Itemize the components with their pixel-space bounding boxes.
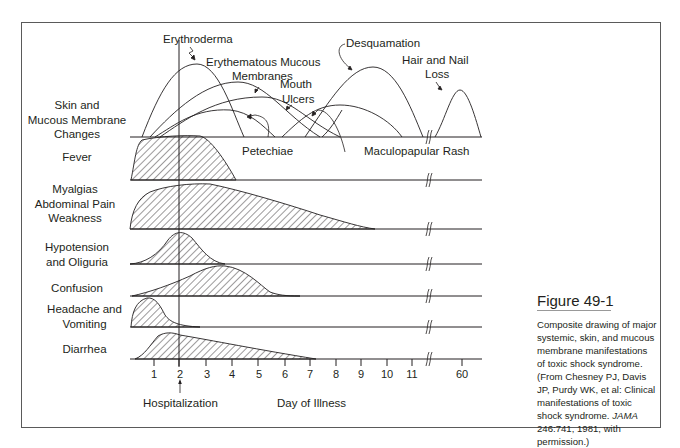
diarrhea-area	[135, 333, 316, 359]
tick-label: 6	[282, 368, 288, 380]
caption-journal: JAMA	[612, 410, 638, 421]
hypotension-area	[130, 233, 225, 264]
erythroderma-curve	[142, 64, 244, 137]
row-label-headache: Headache and Vomiting	[22, 302, 147, 331]
label-line: Mucous Membrane	[22, 113, 132, 128]
x-axis-ticks	[154, 359, 462, 366]
label-line: Weakness	[0, 211, 150, 226]
tick-label: 10	[381, 368, 393, 380]
row-label-skin: Skin and Mucous Membrane Changes	[22, 98, 132, 142]
row-label-confusion: Confusion	[22, 281, 132, 296]
annot-petechiae: Petechiae	[242, 144, 293, 158]
label-line: Confusion	[22, 281, 132, 296]
annot-desquamation: Desquamation	[346, 36, 420, 50]
caption-text: 246:741, 1981, with permission.)	[537, 423, 621, 447]
tick-label: 8	[333, 368, 339, 380]
tick-label: 2	[177, 368, 183, 380]
tick-label: 1	[151, 368, 157, 380]
annot-hair-1: Hair and Nail	[402, 53, 468, 67]
annot-mouth-2: Ulcers	[282, 92, 315, 106]
annot-mouth-1: Mouth	[280, 77, 312, 91]
row-label-myalgias: Myalgias Abdominal Pain Weakness	[0, 182, 150, 226]
annot-hair-2: Loss	[425, 67, 449, 81]
label-line: Vomiting	[22, 317, 147, 332]
hospitalization-arrow-icon	[178, 379, 182, 393]
x-axis-title: Day of Illness	[277, 396, 346, 410]
hair-nail-loss-curve	[435, 90, 481, 137]
label-line: Diarrhea	[22, 342, 147, 357]
tick-label: 5	[256, 368, 262, 380]
tick-label: 11	[406, 368, 417, 380]
caption-text: Composite drawing of major systemic, ski…	[537, 319, 656, 421]
label-line: Skin and	[22, 98, 132, 113]
figure-number: Figure 49-1	[537, 292, 614, 309]
desquamation-curve	[305, 67, 423, 137]
annot-erythematous-1: Erythematous Mucous	[206, 55, 320, 69]
tick-label: 4	[229, 368, 235, 380]
row-label-diarrhea: Diarrhea	[22, 342, 147, 357]
label-line: Changes	[22, 127, 132, 142]
row-label-hypotension: Hypotension and Oliguria	[22, 240, 132, 269]
label-line: Fever	[22, 150, 132, 165]
label-line: Myalgias	[0, 182, 150, 197]
maculopapular-rash-curve	[282, 105, 402, 137]
axis-break-marks	[426, 130, 432, 366]
confusion-area	[132, 266, 300, 296]
label-line: and Oliguria	[22, 255, 132, 270]
annot-maculopapular: Maculopapular Rash	[364, 144, 469, 158]
annot-erythroderma: Erythroderma	[163, 32, 233, 46]
tick-label: 9	[358, 368, 364, 380]
label-line: Headache and	[22, 302, 147, 317]
figure-caption: Composite drawing of major systemic, ski…	[537, 318, 657, 448]
tick-label: 3	[204, 368, 210, 380]
hospitalization-label: Hospitalization	[143, 396, 218, 410]
myalgias-area	[130, 184, 375, 229]
tick-label: 60	[456, 368, 468, 380]
label-line: Hypotension	[22, 240, 132, 255]
caption-divider	[537, 310, 611, 311]
row-label-fever: Fever	[22, 150, 132, 165]
fever-area	[131, 136, 236, 180]
label-line: Abdominal Pain	[0, 197, 150, 212]
tick-label: 7	[307, 368, 313, 380]
